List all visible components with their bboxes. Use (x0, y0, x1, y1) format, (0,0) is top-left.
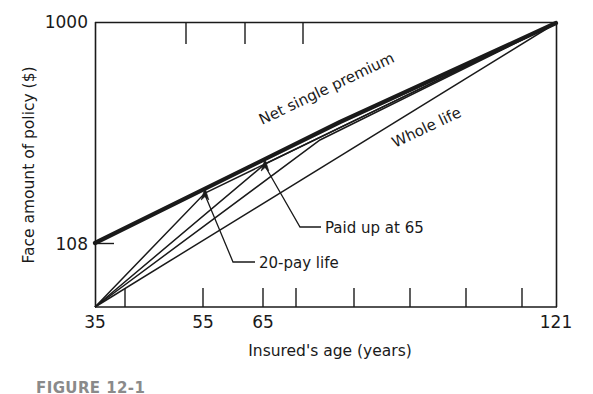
top-tick-marks (186, 23, 303, 44)
y-axis-title: Face amount of policy ($) (20, 66, 38, 263)
annotation-label-20-pay-life: 20-pay life (259, 254, 339, 272)
x-tick-marks (125, 288, 522, 307)
leader-paid-up-at-65 (261, 159, 321, 227)
curve-label-net-single-premium: Net single premium (256, 49, 397, 129)
x-tick-label-65: 65 (252, 312, 274, 332)
annotation-label-paid-up-at-65: Paid up at 65 (325, 219, 424, 237)
chart-svg: 1000 108 35 55 65 121 Face amount of pol… (0, 0, 593, 394)
x-tick-label-121: 121 (540, 312, 572, 332)
curve-label-whole-life: Whole life (389, 103, 464, 151)
x-tick-label-35: 35 (84, 312, 106, 332)
curve-net-single-premium (95, 23, 556, 243)
x-tick-label-55: 55 (192, 312, 214, 332)
figure-caption: FIGURE 12-1 (36, 379, 145, 394)
y-tick-label-1000: 1000 (45, 12, 88, 32)
y-tick-label-108: 108 (56, 234, 88, 254)
figure-container: 1000 108 35 55 65 121 Face amount of pol… (0, 0, 593, 394)
x-axis-title: Insured's age (years) (248, 342, 412, 360)
